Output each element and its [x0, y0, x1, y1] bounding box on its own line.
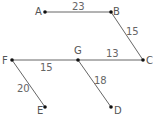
- node-label-c: C: [146, 55, 153, 66]
- node-f: [10, 58, 14, 62]
- node-a: [43, 10, 47, 14]
- node-e: [43, 105, 47, 109]
- node-label-g: G: [74, 45, 82, 56]
- edge-weight-f-g: 15: [40, 62, 53, 73]
- node-label-f: F: [2, 55, 8, 66]
- node-c: [141, 58, 145, 62]
- node-d: [109, 105, 113, 109]
- node-g: [76, 58, 80, 62]
- node-label-b: B: [113, 6, 120, 17]
- graph-diagram: A B C G F E D 23 15 13 15 20 18: [0, 0, 154, 119]
- node-label-e: E: [37, 105, 43, 116]
- edge-weight-a-b: 23: [72, 1, 85, 12]
- node-label-a: A: [35, 6, 42, 17]
- edge-weight-g-c: 13: [106, 48, 119, 59]
- edge-weight-f-e: 20: [17, 83, 30, 94]
- edge-weight-g-d: 18: [94, 75, 107, 86]
- node-label-d: D: [114, 105, 122, 116]
- edge-weight-b-c: 15: [126, 26, 139, 37]
